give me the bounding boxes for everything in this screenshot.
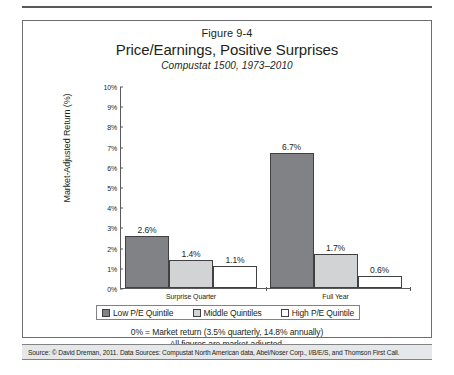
legend-swatch-icon (193, 309, 201, 317)
chart-plot-area: Market-Adjusted Return (%) 10%9%8%7%6%5%… (23, 83, 431, 293)
legend-label: Middle Quintiles (204, 308, 262, 318)
figure-title: Price/Earnings, Positive Surprises (23, 40, 431, 59)
legend-swatch-icon (281, 309, 289, 317)
bar (314, 254, 358, 288)
legend-item: Low P/E Quintile (102, 308, 173, 318)
y-tick-label: 3% (107, 225, 117, 232)
y-tick-label: 9% (107, 104, 117, 111)
x-axis-tick (266, 287, 267, 291)
bar (358, 276, 402, 288)
top-divider-rule (22, 6, 432, 8)
figure-container: Figure 9-4 Price/Earnings, Positive Surp… (22, 20, 432, 338)
bar-group-container: 2.6%1.4%1.1%Surprise Quarter6.7%1.7%0.6%… (121, 87, 410, 288)
axes: 10%9%8%7%6%5%4%3%2%1%0% 2.6%1.4%1.1%Surp… (98, 87, 410, 289)
y-axis-ticks: 10%9%8%7%6%5%4%3%2%1%0% (98, 87, 120, 289)
legend-label: High P/E Quintile (292, 308, 354, 318)
legend-swatch-icon (102, 309, 110, 317)
y-tick-label: 6% (107, 164, 117, 171)
bar-value-label: 1.4% (169, 249, 213, 259)
legend-item: Middle Quintiles (193, 308, 262, 318)
figure-subtitle: Compustat 1500, 1973–2010 (23, 59, 431, 73)
source-band: Source: © David Dreman, 2011. Data Sourc… (22, 344, 432, 360)
bar-value-label: 0.6% (358, 265, 402, 275)
note-line-1: 0% = Market return (3.5% quarterly, 14.8… (23, 326, 431, 338)
y-tick-label: 1% (107, 265, 117, 272)
figure-number: Figure 9-4 (23, 26, 431, 40)
bar-value-label: 1.7% (314, 243, 358, 253)
y-tick-label: 8% (107, 124, 117, 131)
figure-heading: Figure 9-4 Price/Earnings, Positive Surp… (23, 21, 431, 73)
bar (125, 236, 169, 288)
y-tick-label: 4% (107, 205, 117, 212)
bar (213, 266, 257, 288)
legend-item: High P/E Quintile (281, 308, 354, 318)
chart-legend: Low P/E QuintileMiddle QuintilesHigh P/E… (96, 305, 360, 320)
x-axis-category-label: Full Year (260, 292, 412, 301)
bar-value-label: 6.7% (270, 142, 314, 152)
legend-label: Low P/E Quintile (113, 308, 173, 318)
bar-value-label: 2.6% (125, 225, 169, 235)
y-tick-label: 2% (107, 245, 117, 252)
source-text: Source: © David Dreman, 2011. Data Sourc… (22, 348, 399, 357)
x-axis-tick (410, 287, 411, 291)
bar-value-label: 1.1% (213, 255, 257, 265)
y-tick-label: 7% (107, 144, 117, 151)
y-axis-title: Market-Adjusted Return (%) (62, 68, 72, 228)
bar (270, 153, 314, 288)
y-tick-label: 10% (104, 84, 117, 91)
y-tick-label: 5% (107, 185, 117, 192)
x-axis-category-label: Surprise Quarter (115, 292, 267, 301)
bar (169, 260, 213, 288)
